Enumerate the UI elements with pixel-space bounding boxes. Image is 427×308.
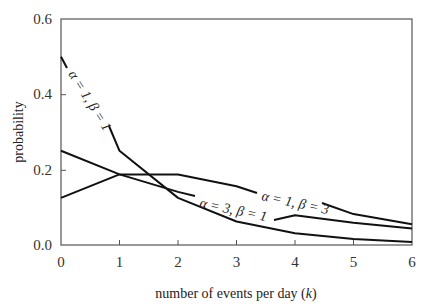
x-tick-label: 4 — [291, 254, 299, 270]
x-tick-label: 5 — [350, 254, 358, 270]
x-tick-label: 2 — [174, 254, 182, 270]
y-tick-label: 0.4 — [33, 86, 52, 102]
x-tick-label: 1 — [116, 254, 124, 270]
series-alpha3-beta1-cont — [274, 215, 412, 228]
y-tick-label: 0.2 — [33, 162, 52, 178]
curve-label-alpha1-beta1: α = 1, β = 1 — [65, 68, 114, 134]
x-tick-label: 6 — [408, 254, 416, 270]
y-tick-label: 0.0 — [33, 237, 52, 253]
curve-label-alpha1-beta3: α = 1, β = 3 — [260, 188, 330, 217]
y-axis-title: probability — [11, 101, 26, 162]
x-tick-label: 3 — [233, 254, 241, 270]
x-axis-title: number of events per day (k) — [155, 286, 317, 302]
chart: 0.0 0.2 0.4 0.6 0 1 2 3 4 5 6 number of … — [0, 0, 427, 308]
series-alpha1-beta1 — [61, 57, 67, 68]
x-tick-label: 0 — [57, 254, 65, 270]
y-tick-label: 0.6 — [33, 11, 52, 27]
